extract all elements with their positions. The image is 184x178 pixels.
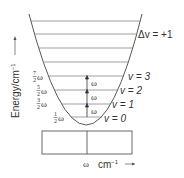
svg-text:7: 7 — [33, 70, 36, 76]
level-label-v1: v = 1 — [112, 99, 134, 110]
energy-label-v1: 3 2 ω — [37, 97, 48, 110]
energy-label-v0: 1 2 ω — [54, 111, 65, 124]
transition-label-3: ω — [91, 78, 97, 88]
level-label-v0: v = 0 — [104, 113, 126, 124]
svg-text:ω: ω — [41, 99, 47, 109]
spectrum-line-label: ω — [83, 159, 89, 169]
energy-label-v3: 7 2 ω — [33, 70, 44, 83]
svg-text:2: 2 — [33, 77, 36, 83]
svg-text:5: 5 — [37, 84, 40, 90]
svg-text:2: 2 — [37, 104, 40, 110]
transition-label-2: ω — [91, 92, 97, 102]
harmonic-oscillator-diagram: ω ω ω v = 0 v = 1 v = 2 v = 3 Δv = +1 1 … — [0, 0, 184, 178]
energy-label-v2: 5 2 ω — [37, 84, 48, 97]
svg-text:ω: ω — [37, 72, 43, 82]
transition-arrows — [86, 76, 89, 118]
level-label-v2: v = 2 — [120, 85, 142, 96]
svg-text:Energy/cm−1: Energy/cm−1 — [10, 63, 21, 118]
svg-text:ω: ω — [41, 86, 47, 96]
svg-text:3: 3 — [37, 97, 40, 103]
transition-label-1: ω — [91, 106, 97, 116]
svg-text:1: 1 — [54, 111, 57, 117]
x-axis-label: cm−1 — [98, 159, 119, 170]
selection-rule: Δv = +1 — [138, 29, 173, 40]
svg-text:ω: ω — [58, 113, 64, 123]
svg-text:2: 2 — [37, 91, 40, 97]
svg-text:2: 2 — [54, 118, 57, 124]
y-axis-label: Energy/cm−1 — [10, 63, 21, 118]
level-label-v3: v = 3 — [128, 71, 150, 82]
